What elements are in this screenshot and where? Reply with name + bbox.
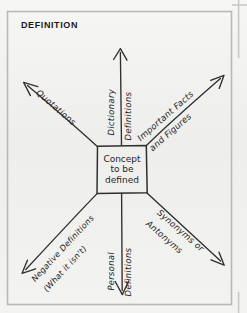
center-node-line-1: Concept [103, 154, 140, 165]
branch-label-personal: Personal [107, 251, 116, 291]
center-node-line-2: to be [110, 164, 133, 175]
branch-label-dictionary-definitions: Definitions [124, 91, 133, 141]
branch-label-dictionary: Dictionary [107, 88, 116, 136]
page-title: Definition [21, 17, 78, 31]
branch-line-up [120, 53, 121, 146]
center-node-line-3: defined [105, 175, 139, 186]
center-node-label: Concept to be defined [97, 146, 147, 193]
branch-line-lower-left [26, 194, 97, 270]
branch-label-personal-definitions: Definitions [124, 247, 133, 297]
branch-line-down [122, 193, 123, 290]
definition-graphic-organizer-page: Definition Concept to be defined Quotati… [0, 0, 247, 313]
